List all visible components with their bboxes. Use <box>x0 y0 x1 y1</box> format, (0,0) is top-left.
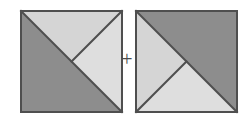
figure-root: + <box>0 0 247 120</box>
right-square <box>136 11 237 112</box>
left-square <box>21 11 122 112</box>
plus-operator-symbol: + <box>118 45 136 73</box>
